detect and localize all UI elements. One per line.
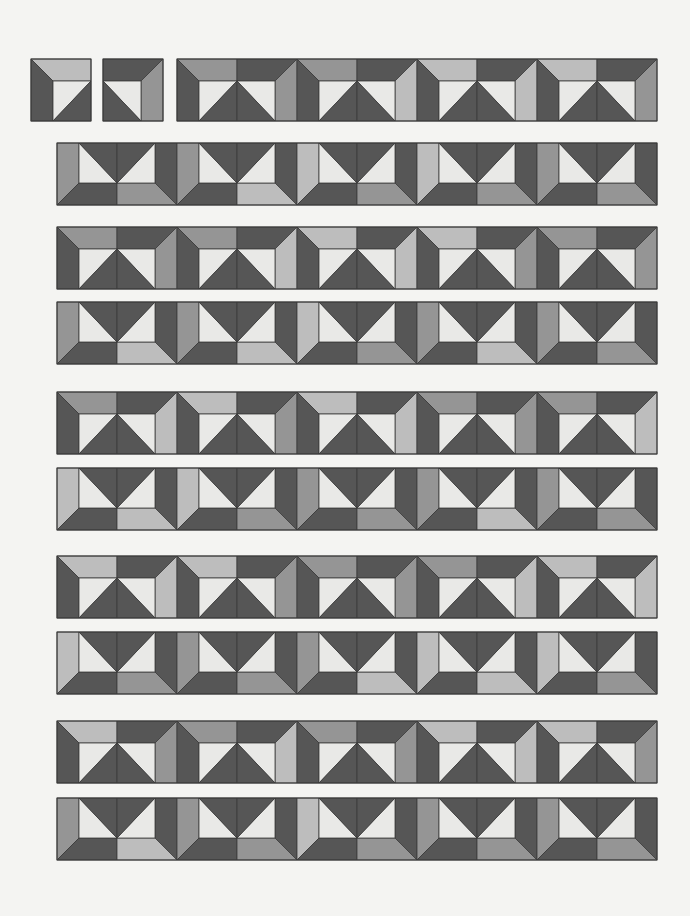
quilt-block xyxy=(417,59,537,121)
quilt-block xyxy=(537,227,657,289)
quilt-block xyxy=(57,227,177,289)
quilt-block xyxy=(57,632,177,694)
quilt-block xyxy=(297,59,417,121)
quilt-block xyxy=(57,143,177,205)
quilt-row-6 xyxy=(57,468,657,530)
quilt-block xyxy=(537,798,657,860)
quilt-block xyxy=(417,143,537,205)
quilt-row-1 xyxy=(177,59,657,121)
quilt-block xyxy=(537,302,657,364)
quilt-row-7 xyxy=(57,556,657,618)
quilt-row-3 xyxy=(57,227,657,289)
quilt-row-2 xyxy=(57,143,657,205)
quilt-block xyxy=(417,392,537,454)
quilt-row-4 xyxy=(57,302,657,364)
quilt-block xyxy=(537,556,657,618)
quilt-block xyxy=(297,798,417,860)
quilt-block xyxy=(297,302,417,364)
quilt-block xyxy=(417,556,537,618)
quilt-row-9 xyxy=(57,721,657,783)
quilt-block xyxy=(537,392,657,454)
tile-a xyxy=(31,59,91,121)
quilt-block xyxy=(537,59,657,121)
quilt-block-diagram xyxy=(0,0,690,916)
quilt-block xyxy=(177,392,297,454)
quilt-block xyxy=(177,556,297,618)
quilt-block xyxy=(177,721,297,783)
quilt-block xyxy=(537,632,657,694)
quilt-block xyxy=(297,392,417,454)
quilt-block xyxy=(297,632,417,694)
quilt-block xyxy=(417,302,537,364)
quilt-block xyxy=(177,798,297,860)
tile-b xyxy=(103,59,163,121)
quilt-block xyxy=(57,721,177,783)
quilt-row-8 xyxy=(57,632,657,694)
quilt-row-5 xyxy=(57,392,657,454)
quilt-block xyxy=(177,227,297,289)
quilt-block xyxy=(297,721,417,783)
quilt-block xyxy=(417,632,537,694)
quilt-block xyxy=(417,227,537,289)
quilt-block xyxy=(57,468,177,530)
quilt-block xyxy=(297,227,417,289)
quilt-block xyxy=(537,468,657,530)
quilt-block xyxy=(177,468,297,530)
quilt-block xyxy=(57,798,177,860)
quilt-block xyxy=(297,556,417,618)
quilt-block xyxy=(177,59,297,121)
quilt-block xyxy=(297,143,417,205)
quilt-block xyxy=(537,143,657,205)
quilt-block xyxy=(417,798,537,860)
quilt-block xyxy=(417,468,537,530)
quilt-row-10 xyxy=(57,798,657,860)
quilt-block xyxy=(177,143,297,205)
quilt-block xyxy=(297,468,417,530)
quilt-block xyxy=(57,392,177,454)
quilt-block xyxy=(417,721,537,783)
quilt-block xyxy=(177,632,297,694)
quilt-block xyxy=(537,721,657,783)
quilt-block xyxy=(57,556,177,618)
quilt-block xyxy=(57,302,177,364)
quilt-block xyxy=(177,302,297,364)
